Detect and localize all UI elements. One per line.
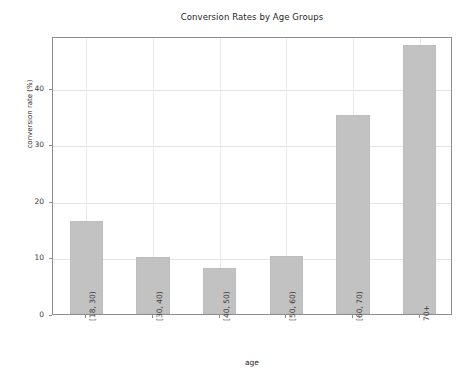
bar [403, 45, 436, 314]
y-tick-mark [49, 145, 52, 146]
y-tick-label: 10 [18, 253, 44, 262]
bar [136, 257, 169, 314]
x-tick-mark [285, 315, 286, 318]
x-tick-mark [419, 315, 420, 318]
x-tick-label: [18, 30) [88, 291, 97, 321]
x-tick-label: 70+ [422, 305, 431, 321]
x-tick-label: [60, 70) [355, 291, 364, 321]
x-tick-mark [352, 315, 353, 318]
y-tick-mark [49, 202, 52, 203]
x-tick-label: [40, 50) [222, 291, 231, 321]
x-tick-mark [85, 315, 86, 318]
x-tick-label: [30, 40) [155, 291, 164, 321]
bar-series [53, 38, 451, 314]
y-axis-label: conversion rate (%) [26, 54, 34, 174]
bar [203, 268, 236, 314]
y-tick-label: 0 [18, 310, 44, 319]
chart-title: Conversion Rates by Age Groups [52, 12, 452, 22]
y-tick-mark [49, 258, 52, 259]
bar [336, 115, 369, 314]
x-axis-label: age [52, 358, 452, 367]
x-tick-mark [219, 315, 220, 318]
bar-chart-figure: Conversion Rates by Age Groups 010203040… [0, 0, 473, 378]
x-tick-mark [152, 315, 153, 318]
x-tick-label: [50, 60) [288, 291, 297, 321]
bar [270, 256, 303, 314]
bar [70, 221, 103, 314]
y-tick-mark [49, 315, 52, 316]
y-tick-mark [49, 89, 52, 90]
y-tick-label: 20 [18, 197, 44, 206]
plot-area [52, 37, 452, 315]
